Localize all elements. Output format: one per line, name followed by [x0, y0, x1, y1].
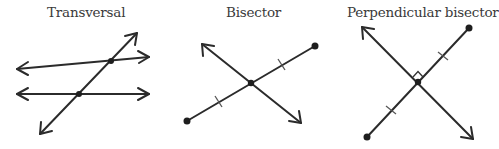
right-angle-marker	[413, 72, 423, 78]
endpoint	[466, 25, 473, 32]
geometry-diagrams	[0, 0, 499, 149]
endpoint	[364, 134, 371, 141]
intersection-point	[108, 58, 114, 64]
intersection-point	[76, 91, 82, 97]
bisector-diagram	[184, 43, 319, 125]
parallel-line-top	[17, 57, 149, 69]
midpoint	[248, 80, 254, 86]
endpoint	[184, 118, 191, 125]
transversal-diagram	[17, 33, 149, 134]
midpoint	[415, 79, 421, 85]
transversal-line	[40, 33, 137, 134]
endpoint	[312, 43, 319, 50]
perpendicular-bisector-diagram	[362, 25, 473, 141]
